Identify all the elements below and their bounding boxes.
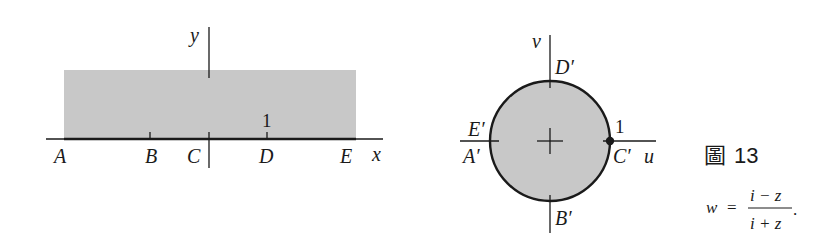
u-axis-label: u	[644, 145, 654, 167]
point-label-e: E	[339, 145, 352, 167]
formula-lhs: w	[706, 198, 718, 217]
x-axis-label: x	[371, 143, 381, 165]
y-axis-label: y	[188, 24, 199, 47]
point-label-b-prime: B′	[555, 207, 572, 229]
v-axis-label: v	[532, 30, 541, 52]
formula-denominator: i + z	[750, 214, 782, 233]
caption-number: 13	[734, 143, 758, 168]
tick-label-one: 1	[262, 110, 272, 131]
figure-caption: 圖 13	[704, 143, 758, 168]
point-label-d-prime: D′	[554, 56, 574, 78]
formula-numerator: i − z	[750, 186, 782, 205]
upper-half-plane-region	[64, 70, 356, 139]
w-plane-diagram: v D′ E′ A′ 1 C′ u B′	[460, 30, 656, 233]
point-label-a: A	[52, 145, 67, 167]
point-label-d: D	[258, 145, 274, 167]
point-label-a-prime: A′	[461, 145, 480, 167]
point-label-e-prime: E′	[467, 118, 485, 140]
point-label-c-prime: C′	[613, 145, 631, 167]
mapping-formula: w = i − z i + z .	[706, 186, 797, 233]
caption-prefix: 圖	[704, 143, 726, 168]
formula-equals: =	[727, 198, 737, 217]
point-c-prime-marker	[606, 137, 614, 145]
point-label-c: C	[187, 145, 201, 167]
conformal-map-figure: y 1 A B C D E x v D′ E′ A′ 1 C′ u B′ 圖 1…	[0, 0, 837, 248]
z-plane-diagram: y 1 A B C D E x	[46, 24, 383, 168]
tick-label-one-w: 1	[615, 116, 625, 137]
formula-period: .	[793, 200, 797, 219]
point-label-b: B	[145, 145, 157, 167]
